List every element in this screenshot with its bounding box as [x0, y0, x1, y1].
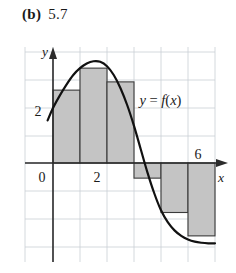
- x-tick-label-2: 2: [94, 170, 101, 185]
- bar-rect: [107, 82, 134, 163]
- figure-page: (b)5.7: [0, 0, 236, 273]
- svg-text:y = f(x): y = f(x): [137, 92, 181, 109]
- x-tick-label-0: 0: [39, 170, 46, 185]
- y-axis-name: y: [40, 44, 48, 59]
- bar-rect: [80, 68, 107, 163]
- function-annotation: y = f(x): [137, 92, 181, 109]
- x-tick-label-6: 6: [195, 147, 202, 162]
- riemann-sum-figure: 2 0 2 6 y x y = f(x): [0, 0, 236, 273]
- y-tick-label-2: 2: [35, 104, 42, 119]
- bar-rect: [161, 163, 188, 213]
- x-axis-name: x: [217, 170, 224, 185]
- bar-rect: [188, 163, 215, 236]
